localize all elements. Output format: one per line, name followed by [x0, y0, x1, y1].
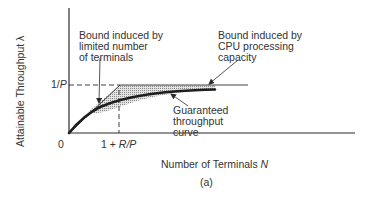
x-tick-knee: 1 + R/P [101, 139, 136, 150]
terminal-bound-annotation: Bound induced by limited number of termi… [79, 30, 163, 63]
guaranteed-curve-annotation: Guaranteed throughput curve [173, 105, 228, 138]
x-axis-label: Number of Terminals N [161, 159, 268, 170]
figure-caption: (a) [200, 177, 213, 188]
y-tick-var: P [60, 78, 67, 90]
y-axis-label: Attainable Throughput λ [14, 36, 26, 147]
x-tick-prefix: 1 + [101, 138, 119, 150]
x-axis-label-text: Number of Terminals [161, 158, 261, 170]
terminal-bound-arrow [99, 58, 100, 103]
y-tick-one-over-p: 1/P [51, 79, 67, 90]
throughput-bounds-diagram: Bound induced by limited number of termi… [0, 0, 370, 210]
cpu-bound-annotation: Bound induced by CPU processing capacity [218, 30, 302, 63]
x-axis-label-var: N [261, 158, 269, 170]
cpu-bound-arrow [209, 60, 238, 84]
origin-label: 0 [58, 139, 64, 150]
x-tick-var: R/P [119, 138, 137, 150]
y-tick-prefix: 1/ [51, 78, 60, 90]
